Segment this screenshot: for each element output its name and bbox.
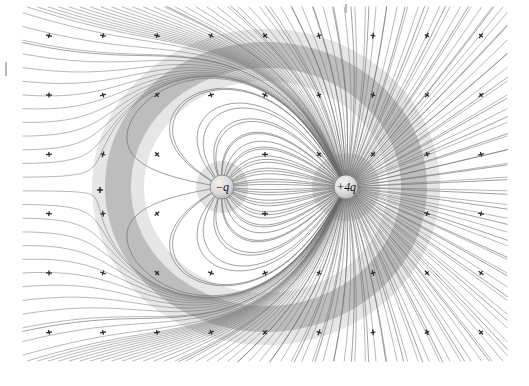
positive-charge-sphere (334, 175, 358, 199)
left-edge-tick (5, 62, 7, 76)
negative-charge-sphere (210, 175, 234, 199)
field-line-figure: −q +4q (0, 0, 529, 386)
top-edge-tick (345, 4, 347, 13)
field-line-canvas (0, 0, 529, 386)
